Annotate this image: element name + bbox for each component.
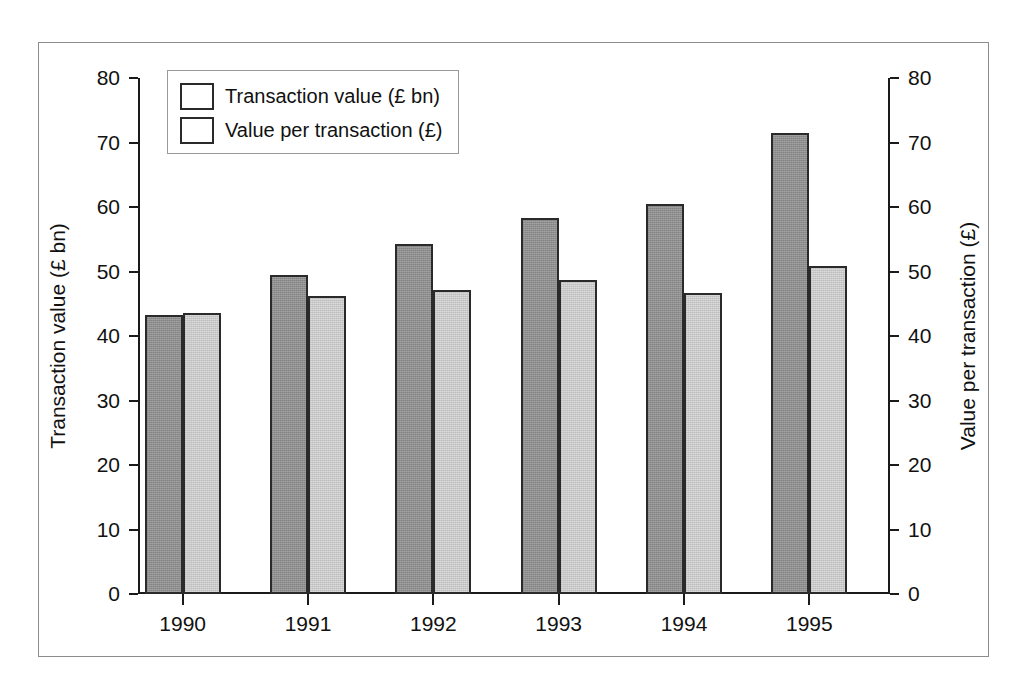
- right-axis-tick-label: 60: [908, 196, 988, 217]
- x-axis-tick: [808, 594, 810, 605]
- right-axis-tick: [890, 271, 899, 273]
- x-axis-tick: [683, 594, 685, 605]
- left-axis-tick-label: 20: [40, 454, 120, 475]
- left-axis-tick-label: 40: [40, 325, 120, 346]
- bar-1991-series-1: [270, 275, 308, 594]
- x-axis-tick-label: 1993: [499, 612, 619, 636]
- legend-swatch-transaction-value: [180, 83, 214, 110]
- bar-1990-series-1: [145, 315, 183, 594]
- left-axis-tick-label: 30: [40, 390, 120, 411]
- legend-item-transaction-value: Transaction value (£ bn): [180, 79, 448, 113]
- bar-1992-series-1: [395, 244, 433, 594]
- legend-label-value-per-transaction: Value per transaction (£): [225, 119, 443, 141]
- right-axis-tick: [890, 593, 899, 595]
- left-axis-tick: [129, 77, 138, 79]
- right-axis-tick: [890, 529, 899, 531]
- plot-area: 80706050403020100 80706050403020100 1990…: [138, 78, 890, 594]
- left-axis-tick: [129, 529, 138, 531]
- left-axis-tick: [129, 142, 138, 144]
- bar-1995-series-1: [771, 133, 809, 594]
- left-axis-tick-label: 60: [40, 196, 120, 217]
- bar-1991-series-2: [308, 296, 346, 594]
- right-axis-tick-label: 40: [908, 325, 988, 346]
- right-axis-tick: [890, 335, 899, 337]
- bar-1990-series-2: [183, 313, 221, 594]
- left-axis-tick: [129, 271, 138, 273]
- right-axis-tick-label: 20: [908, 454, 988, 475]
- left-axis-tick-label: 50: [40, 261, 120, 282]
- left-axis-tick: [129, 400, 138, 402]
- bar-1993-series-1: [521, 218, 559, 594]
- right-axis-tick: [890, 77, 899, 79]
- bar-1992-series-2: [433, 290, 471, 594]
- right-axis-tick-label: 80: [908, 67, 988, 88]
- bar-1994-series-2: [684, 293, 722, 594]
- left-axis-line: [138, 78, 140, 594]
- x-axis-tick: [182, 594, 184, 605]
- right-axis-tick-label: 0: [908, 583, 988, 604]
- left-axis-tick-label: 0: [40, 583, 120, 604]
- x-axis-tick: [307, 594, 309, 605]
- bar-1995-series-2: [809, 266, 847, 594]
- x-axis-tick: [558, 594, 560, 605]
- right-axis-tick-label: 70: [908, 132, 988, 153]
- left-axis-tick: [129, 593, 138, 595]
- legend-label-transaction-value: Transaction value (£ bn): [225, 85, 440, 107]
- right-axis-tick-label: 10: [908, 519, 988, 540]
- right-axis-tick: [890, 464, 899, 466]
- right-axis-tick: [890, 206, 899, 208]
- bar-1993-series-2: [559, 280, 597, 594]
- x-axis-tick-label: 1994: [624, 612, 744, 636]
- right-axis-tick-label: 50: [908, 261, 988, 282]
- left-axis-tick-label: 10: [40, 519, 120, 540]
- bar-1994-series-1: [646, 204, 684, 594]
- legend-swatch-value-per-transaction: [180, 117, 214, 144]
- right-axis-tick: [890, 400, 899, 402]
- left-axis-tick: [129, 464, 138, 466]
- right-axis-tick-label: 30: [908, 390, 988, 411]
- x-axis-tick-label: 1990: [123, 612, 243, 636]
- left-axis-tick-label: 80: [40, 67, 120, 88]
- x-axis-tick: [432, 594, 434, 605]
- left-axis-tick: [129, 335, 138, 337]
- x-axis-tick-label: 1992: [373, 612, 493, 636]
- legend-item-value-per-transaction: Value per transaction (£): [180, 113, 448, 147]
- chart-figure: Transaction value (£ bn) Value per trans…: [0, 0, 1027, 694]
- right-axis-tick: [890, 142, 899, 144]
- left-axis-tick-label: 70: [40, 132, 120, 153]
- x-axis-tick-label: 1995: [749, 612, 869, 636]
- chart-legend: Transaction value (£ bn) Value per trans…: [167, 70, 459, 154]
- left-axis-tick: [129, 206, 138, 208]
- x-axis-tick-label: 1991: [248, 612, 368, 636]
